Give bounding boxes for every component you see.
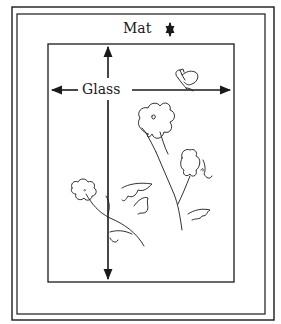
framed-picture-diagram: Mat Glass [0,0,281,324]
diagram-canvas [0,0,281,324]
inner-frame [17,14,265,314]
glass-panel [48,44,234,282]
butterfly-illustration [176,69,198,91]
flower-illustration [71,103,212,246]
mat-label: Mat [121,20,153,36]
outer-frame [12,7,274,320]
glass-label: Glass [80,81,122,97]
